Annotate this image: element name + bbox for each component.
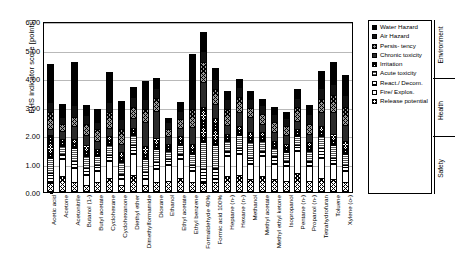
bar-segment <box>94 141 101 150</box>
legend-swatch-icon <box>372 71 377 76</box>
bar-methanol[interactable] <box>247 91 254 192</box>
bar-segment <box>271 114 278 123</box>
bar-segment <box>71 117 78 127</box>
legend-item[interactable]: Air Hazard <box>372 33 429 40</box>
bar-segment <box>247 91 254 100</box>
group-bracket-label: Health <box>437 100 444 122</box>
bar-butyl-acetate[interactable] <box>94 109 101 192</box>
bar-acetonitrile[interactable] <box>71 62 78 192</box>
bar-dimethylformamide[interactable] <box>142 81 149 192</box>
x-tick-label: Formic acid 100% <box>212 195 219 265</box>
bar-segment <box>130 145 137 154</box>
bar-xylene-o[interactable] <box>342 75 349 192</box>
y-tick-label: 5.00 <box>14 46 40 55</box>
bar-formaldehyde-40[interactable] <box>200 32 207 192</box>
bar-segment <box>153 138 160 149</box>
bar-ethanol[interactable] <box>165 118 172 192</box>
bar-isopropanol[interactable] <box>283 112 290 192</box>
bar-segment <box>212 168 219 179</box>
x-tick-label-text: Acetonitrile <box>74 195 81 226</box>
bar-segment <box>212 182 219 192</box>
bar-segment <box>294 98 301 107</box>
bar-segment <box>189 171 196 182</box>
x-tick-label: Isopropanol <box>283 195 290 265</box>
bar-segment <box>283 144 290 153</box>
bar-segment <box>106 112 113 128</box>
bar-segment <box>330 134 337 145</box>
bar-diethyl-ether[interactable] <box>130 87 137 192</box>
bar-segment <box>200 142 207 169</box>
bar-segment <box>306 114 313 124</box>
bar-methyl-ethyl-ketone[interactable] <box>271 107 278 192</box>
bar-segment <box>224 99 231 109</box>
bar-cyclohexanone[interactable] <box>118 101 125 192</box>
legend-swatch-icon <box>372 81 377 86</box>
bar-segment <box>47 102 54 112</box>
bar-methyl-acetate[interactable] <box>259 99 266 192</box>
bar-segment <box>259 114 266 124</box>
bar-segment <box>83 175 90 185</box>
bar-segment <box>247 142 254 158</box>
bar-segment <box>142 81 149 100</box>
legend-item-label: React./ Decom. <box>380 80 423 87</box>
bar-segment <box>106 145 113 155</box>
legend-item[interactable]: Persis- tency <box>372 43 429 50</box>
bar-segment <box>330 179 337 192</box>
legend-item[interactable]: Chronic toxicity <box>372 52 429 59</box>
bar-segment <box>83 156 90 167</box>
bar-segment <box>118 185 125 192</box>
bar-segment <box>200 169 207 182</box>
bar-segment <box>177 178 184 192</box>
bar-segment <box>236 112 243 126</box>
bar-propanol-n[interactable] <box>306 105 313 192</box>
group-bracket: Safety <box>433 136 455 194</box>
bar-hexane-n[interactable] <box>236 79 243 192</box>
bar-segment <box>318 112 325 126</box>
legend-item[interactable]: Release potential <box>372 98 429 105</box>
bar-butanol-1[interactable] <box>83 105 90 192</box>
group-bracket-line <box>434 20 435 78</box>
bar-segment <box>94 129 101 140</box>
legend-item-label: Water Hazard <box>380 24 418 31</box>
bar-ethyl-acetate[interactable] <box>177 102 184 192</box>
bar-segment <box>47 173 54 182</box>
x-tick-label-text: Ethyl benzene <box>192 195 199 234</box>
bar-segment <box>283 152 290 161</box>
x-tick-label: Acetonitrile <box>70 195 77 265</box>
bar-cyclohexane[interactable] <box>106 72 113 192</box>
bar-tetrahydrofuran[interactable] <box>318 71 325 192</box>
legend-item[interactable]: Irritation <box>372 61 429 68</box>
legend-item[interactable]: Fire/ Explos. <box>372 89 429 96</box>
bar-heptane-n[interactable] <box>224 91 231 192</box>
bar-segment <box>177 102 184 111</box>
legend-item[interactable]: Water Hazard <box>372 24 429 31</box>
bar-segment <box>83 105 90 115</box>
bar-segment <box>294 129 301 136</box>
y-tick-label: 4.00 <box>14 75 40 84</box>
bar-dioxane[interactable] <box>153 78 160 192</box>
legend-item[interactable]: React./ Decom. <box>372 80 429 87</box>
bar-segment <box>259 124 266 133</box>
bar-segment <box>342 141 349 154</box>
bar-toluene[interactable] <box>330 62 337 192</box>
group-bracket-label: Environment <box>437 42 444 64</box>
x-tick-label-text: Formic acid 100% <box>216 195 223 245</box>
x-tick-label-text: Pentane (n-) <box>299 195 306 229</box>
bar-segment <box>71 126 78 139</box>
bar-ethyl-benzene[interactable] <box>189 54 196 192</box>
bar-segment <box>177 145 184 154</box>
bar-acetic-acid[interactable] <box>47 64 54 192</box>
bar-segment <box>247 132 254 142</box>
bar-segment <box>330 164 337 180</box>
bar-formic-acid-100[interactable] <box>212 68 219 192</box>
bar-segment <box>294 136 301 145</box>
x-tick-label-text: Butanol (1-) <box>85 195 92 227</box>
bar-pentane-n[interactable] <box>294 89 301 192</box>
legend-item[interactable]: Acute toxicity <box>372 70 429 77</box>
bar-segment <box>130 175 137 192</box>
x-tick-label-text: Cyclohexane <box>109 195 116 231</box>
x-tick-label-text: Dimethylformamide <box>145 195 152 248</box>
bar-segment <box>259 141 266 151</box>
bar-acetone[interactable] <box>59 104 66 192</box>
bar-segment <box>200 62 207 82</box>
